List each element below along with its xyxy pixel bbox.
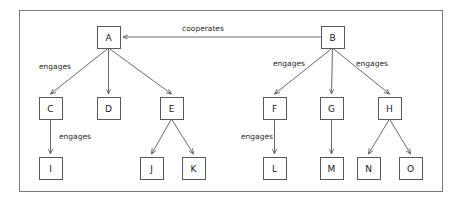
node-f[interactable]: F (264, 98, 287, 120)
edge-a-to-e (109, 48, 172, 94)
node-l[interactable]: L (264, 158, 287, 180)
node-n[interactable]: N (358, 158, 381, 180)
edge-b-to-f (275, 48, 333, 94)
edge-h-to-n (369, 119, 390, 154)
node-label-m: M (328, 164, 336, 174)
edge-e-to-j (152, 119, 172, 154)
node-g[interactable]: G (321, 98, 344, 120)
node-b[interactable]: B (322, 27, 345, 49)
node-c[interactable]: C (40, 98, 63, 120)
diagram-svg: ABCDEFGHIJKLMNO cooperatesengagesengages… (0, 0, 462, 202)
node-label-a: A (105, 33, 112, 43)
node-o[interactable]: O (400, 158, 423, 180)
label-engages-c-i: engages (59, 132, 91, 141)
label-engages-b-h: engages (356, 59, 388, 68)
node-label-i: I (49, 164, 52, 174)
node-d[interactable]: D (98, 98, 121, 120)
nodes-layer: ABCDEFGHIJKLMNO (40, 27, 423, 180)
node-label-j: J (149, 164, 153, 174)
node-label-g: G (328, 104, 335, 114)
label-engages-b-f: engages (273, 59, 305, 68)
node-label-b: B (329, 33, 335, 43)
edge-a-to-c (51, 48, 109, 94)
node-label-c: C (47, 104, 53, 114)
label-engages-f-l: engages (241, 132, 273, 141)
node-label-d: D (105, 104, 112, 114)
node-j[interactable]: J (141, 158, 164, 180)
diagram-canvas: ABCDEFGHIJKLMNO cooperatesengagesengages… (0, 0, 462, 202)
label-cooperates: cooperates (182, 24, 224, 33)
node-i[interactable]: I (40, 158, 63, 180)
edge-b-to-h (333, 48, 390, 94)
label-engages-a-c: engages (39, 62, 71, 71)
edge-b-to-g (332, 48, 333, 94)
edge-h-to-o (390, 119, 411, 154)
node-label-o: O (407, 164, 414, 174)
node-a[interactable]: A (98, 27, 121, 49)
node-label-n: N (365, 164, 372, 174)
node-label-e: E (169, 104, 175, 114)
node-label-f: F (272, 104, 277, 114)
node-k[interactable]: K (183, 158, 206, 180)
node-m[interactable]: M (321, 158, 344, 180)
edges-layer (51, 37, 411, 154)
node-e[interactable]: E (161, 98, 184, 120)
node-h[interactable]: H (379, 98, 402, 120)
node-label-h: H (386, 104, 393, 114)
node-label-l: L (272, 164, 277, 174)
edge-e-to-k (172, 119, 194, 154)
